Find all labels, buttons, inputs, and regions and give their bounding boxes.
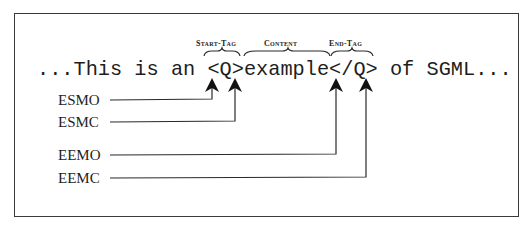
brace-start-tag [204,48,240,56]
brace-end-tag [331,48,373,56]
pointer-eemc-line [110,88,366,178]
pointer-esmc-line [110,88,235,122]
brace-content [244,48,330,56]
connector-lines [0,0,532,225]
pointer-esmo-line [110,88,212,100]
